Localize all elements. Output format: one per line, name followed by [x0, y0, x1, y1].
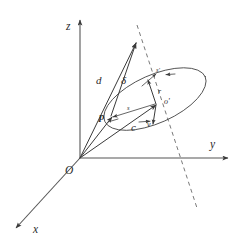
label-v: v — [147, 120, 151, 129]
vector-v — [153, 105, 156, 124]
origin-label: O — [65, 164, 74, 176]
vector-c — [80, 105, 156, 158]
vector-r — [148, 80, 156, 104]
label-o-prime: o' — [164, 97, 170, 106]
label-c: c — [131, 121, 136, 133]
vector-p — [80, 117, 112, 158]
axis-label-z: z — [65, 20, 71, 32]
figure-container: z y x O d δ p c r v s' o' s — [0, 0, 239, 246]
label-p: p — [98, 110, 105, 122]
label-delta: δ — [121, 74, 127, 86]
axis-label-x: x — [32, 223, 39, 235]
axis-label-y: y — [209, 138, 216, 151]
vector-diagram-svg: z y x O d δ p c r v s' o' s — [0, 0, 239, 246]
label-s-prime: s' — [156, 66, 161, 73]
label-d: d — [96, 74, 102, 86]
label-r: r — [158, 87, 162, 96]
orbit-ellipse — [95, 55, 215, 144]
vector-d — [80, 43, 136, 158]
label-s: s — [127, 104, 130, 111]
orbit-normal-dashed-line — [137, 25, 197, 208]
